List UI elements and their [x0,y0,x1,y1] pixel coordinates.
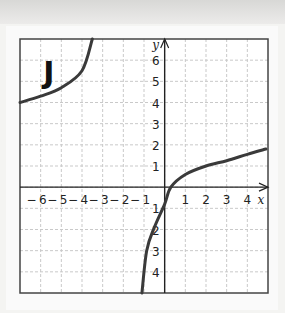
y-tick-label: 3 [152,118,160,132]
x-tick-label: − 3 [89,193,109,207]
y-axis-label: y [151,38,159,52]
x-tick-label: − 5 [47,193,67,207]
x-axis-label: x [257,193,264,207]
y-tick-label: 4 [152,266,160,280]
x-tick-label: − 4 [68,193,88,207]
x-tick-label: 3 [223,193,231,207]
x-tick-label: 1 [182,193,190,207]
x-tick-label: − 6 [27,193,47,207]
x-tick-label: − 2 [109,193,129,207]
panel-label: J [41,55,54,90]
x-tick-label: 2 [202,193,210,207]
x-tick-label: − 1 [130,193,150,207]
y-tick-label: 2 [152,139,160,153]
x-tick-label: 4 [244,193,252,207]
y-tick-label: 5 [152,75,160,89]
y-tick-label: 3 [152,245,160,259]
y-tick-label: 1 [152,160,160,174]
y-tick-label: 4 [152,97,160,111]
graph-J: − 6− 5− 4− 3− 2− 112346543211234xyJ [0,0,285,313]
y-tick-label: 6 [152,54,160,68]
